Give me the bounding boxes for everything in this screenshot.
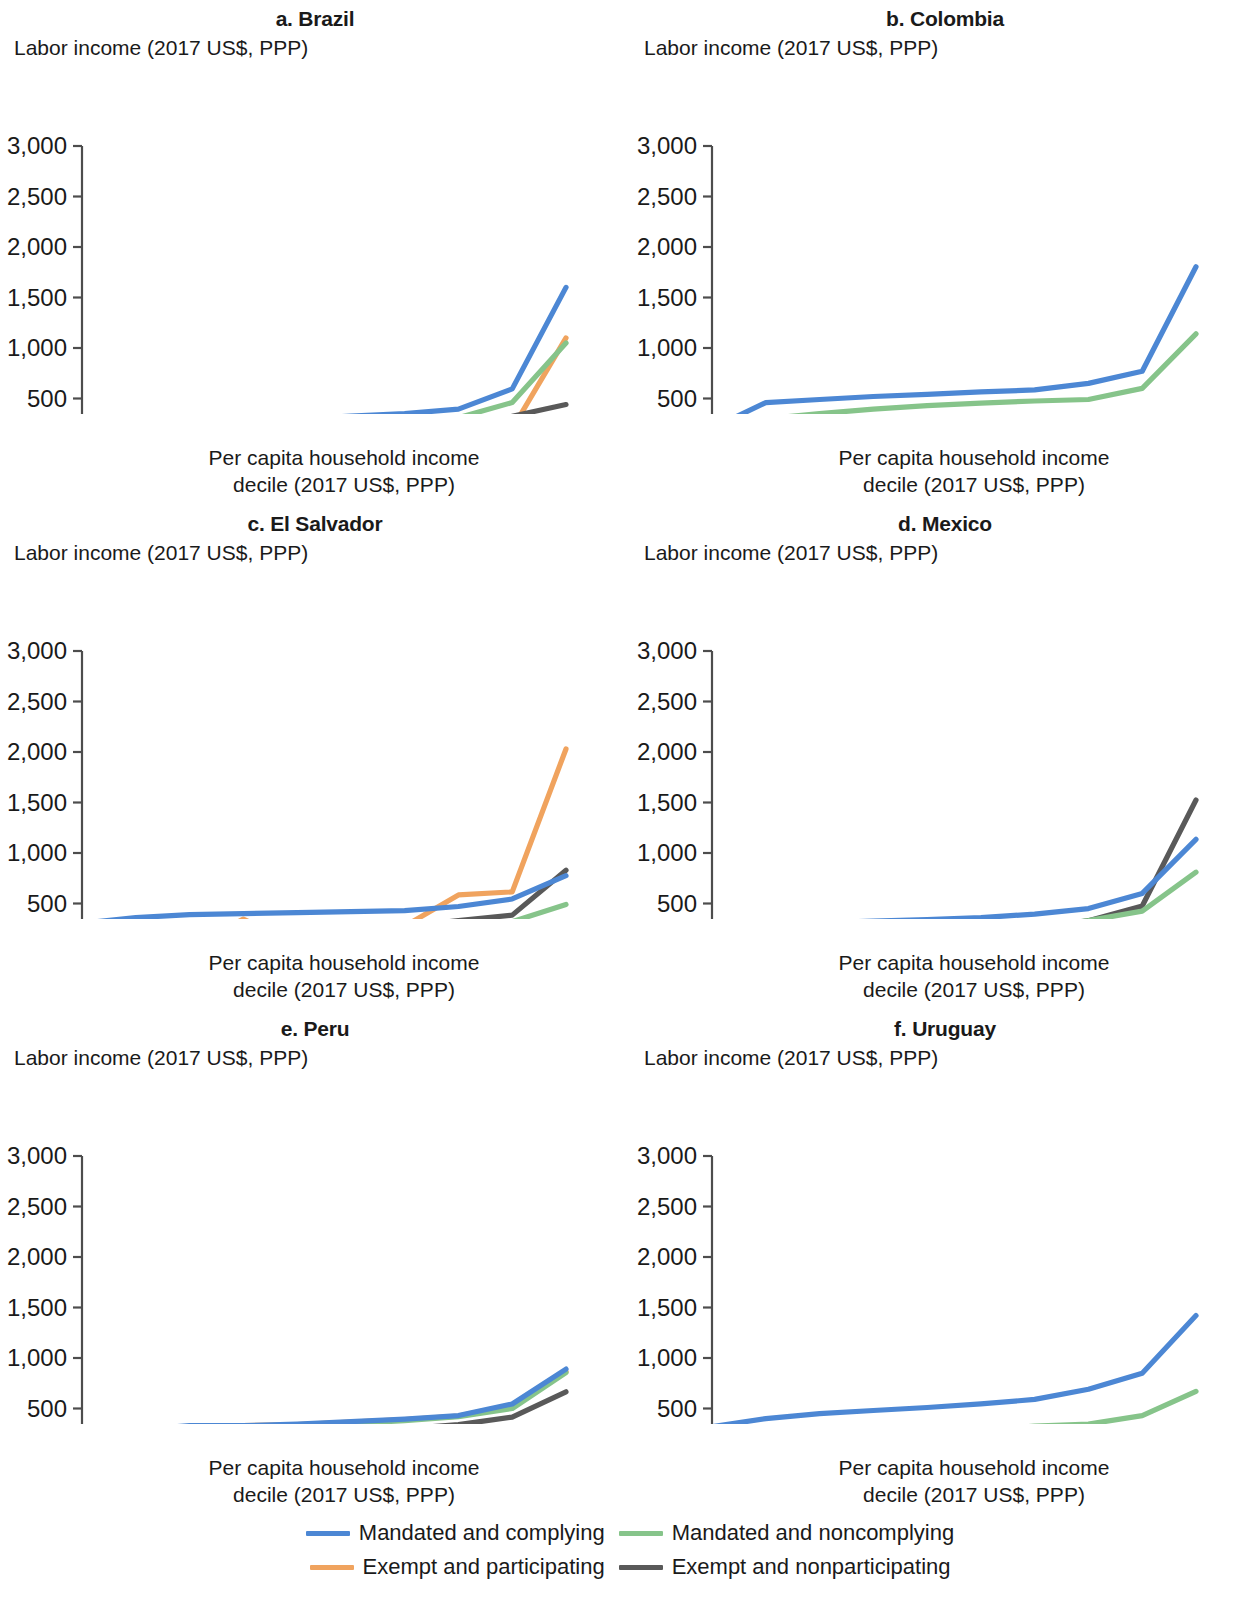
- x-axis-title-line1: Per capita household income: [839, 951, 1110, 974]
- panel-title: e. Peru: [0, 1016, 630, 1044]
- plot-area: 05001,0001,5002,0002,5003,00012345678910: [630, 64, 1260, 414]
- series-line: [712, 872, 1196, 919]
- series-line: [712, 1316, 1196, 1424]
- plot-area: 05001,0001,5002,0002,5003,00012345678910: [630, 1074, 1260, 1424]
- x-axis-title-line1: Per capita household income: [209, 1456, 480, 1479]
- series-line: [712, 839, 1196, 919]
- plot-area: 05001,0001,5002,0002,5003,00012345678910: [0, 64, 630, 414]
- legend-label: Mandated and noncomplying: [672, 1518, 955, 1548]
- x-axis-title-line1: Per capita household income: [209, 446, 480, 469]
- y-axis-title: Labor income (2017 US$, PPP): [14, 34, 630, 64]
- panel-a: a. BrazilLabor income (2017 US$, PPP)050…: [0, 0, 630, 505]
- y-tick-label: 1,000: [7, 334, 67, 361]
- plot-area: 05001,0001,5002,0002,5003,00012345678910: [630, 569, 1260, 919]
- y-tick-label: 2,000: [637, 738, 697, 765]
- panel-title: b. Colombia: [630, 6, 1260, 34]
- y-tick-label: 3,000: [637, 132, 697, 159]
- legend-label: Exempt and nonparticipating: [672, 1552, 951, 1582]
- y-tick-label: 1,000: [7, 1344, 67, 1371]
- y-axis-title: Labor income (2017 US$, PPP): [14, 539, 630, 569]
- legend-swatch-icon: [310, 1565, 354, 1570]
- y-tick-label: 1,000: [637, 1344, 697, 1371]
- legend-row: Exempt and participatingExempt and nonpa…: [310, 1552, 951, 1582]
- panel-c: c. El SalvadorLabor income (2017 US$, PP…: [0, 505, 630, 1010]
- x-axis-title-line2: decile (2017 US$, PPP): [688, 471, 1260, 498]
- y-tick-label: 500: [27, 385, 67, 412]
- legend-swatch-icon: [619, 1531, 663, 1536]
- y-tick-label: 500: [27, 890, 67, 917]
- legend-row: Mandated and complyingMandated and nonco…: [306, 1518, 954, 1548]
- legend-swatch-icon: [306, 1531, 350, 1536]
- y-tick-label: 1,000: [637, 334, 697, 361]
- y-axis-title: Labor income (2017 US$, PPP): [14, 1044, 630, 1074]
- series-line: [82, 1369, 566, 1424]
- panel-grid: a. BrazilLabor income (2017 US$, PPP)050…: [0, 0, 1260, 1502]
- y-axis-title: Labor income (2017 US$, PPP): [644, 1044, 1260, 1074]
- series-line: [82, 1372, 566, 1424]
- panel-f: f. UruguayLabor income (2017 US$, PPP)05…: [630, 1010, 1260, 1502]
- panel-b: b. ColombiaLabor income (2017 US$, PPP)0…: [630, 0, 1260, 505]
- y-tick-label: 1,500: [7, 789, 67, 816]
- legend-item-exempt_nonparticipating: Exempt and nonparticipating: [619, 1552, 951, 1582]
- y-tick-label: 3,000: [7, 1142, 67, 1169]
- y-tick-label: 1,000: [7, 839, 67, 866]
- series-line: [82, 1373, 566, 1424]
- y-tick-label: 2,500: [637, 183, 697, 210]
- y-tick-label: 1,500: [637, 284, 697, 311]
- x-axis-title-line2: decile (2017 US$, PPP): [688, 976, 1260, 1003]
- x-axis-title-line1: Per capita household income: [209, 951, 480, 974]
- plot-svg: 05001,0001,5002,0002,5003,00012345678910: [0, 64, 630, 414]
- y-tick-label: 500: [657, 385, 697, 412]
- y-tick-label: 2,000: [7, 738, 67, 765]
- y-tick-label: 3,000: [7, 637, 67, 664]
- y-axis-title: Labor income (2017 US$, PPP): [644, 34, 1260, 64]
- y-tick-label: 2,000: [637, 1243, 697, 1270]
- y-tick-label: 1,500: [637, 789, 697, 816]
- plot-svg: 05001,0001,5002,0002,5003,00012345678910: [630, 64, 1260, 414]
- legend-item-mandated_noncomplying: Mandated and noncomplying: [619, 1518, 955, 1548]
- x-axis-title: Per capita household incomedecile (2017 …: [630, 444, 1260, 498]
- y-tick-label: 2,000: [7, 233, 67, 260]
- plot-svg: 05001,0001,5002,0002,5003,00012345678910: [0, 569, 630, 919]
- panel-title: a. Brazil: [0, 6, 630, 34]
- y-tick-label: 2,000: [7, 1243, 67, 1270]
- y-tick-label: 2,500: [637, 1193, 697, 1220]
- x-axis-title: Per capita household incomedecile (2017 …: [0, 949, 630, 1003]
- y-tick-label: 2,000: [637, 233, 697, 260]
- plot-area: 05001,0001,5002,0002,5003,00012345678910: [0, 569, 630, 919]
- y-tick-label: 500: [27, 1395, 67, 1422]
- plot-area: 05001,0001,5002,0002,5003,00012345678910: [0, 1074, 630, 1424]
- panel-d: d. MexicoLabor income (2017 US$, PPP)050…: [630, 505, 1260, 1010]
- y-tick-label: 3,000: [7, 132, 67, 159]
- panel-e: e. PeruLabor income (2017 US$, PPP)05001…: [0, 1010, 630, 1502]
- y-tick-label: 2,500: [7, 688, 67, 715]
- plot-svg: 05001,0001,5002,0002,5003,00012345678910: [0, 1074, 630, 1424]
- y-tick-label: 2,500: [637, 688, 697, 715]
- y-tick-label: 1,500: [637, 1294, 697, 1321]
- x-axis-title: Per capita household incomedecile (2017 …: [630, 949, 1260, 1003]
- x-axis-title-line2: decile (2017 US$, PPP): [58, 471, 630, 498]
- y-tick-label: 2,500: [7, 183, 67, 210]
- y-axis-title: Labor income (2017 US$, PPP): [644, 539, 1260, 569]
- y-tick-label: 500: [657, 890, 697, 917]
- y-tick-label: 3,000: [637, 1142, 697, 1169]
- legend-label: Exempt and participating: [363, 1552, 605, 1582]
- y-tick-label: 2,500: [7, 1193, 67, 1220]
- x-axis-title: Per capita household incomedecile (2017 …: [0, 1454, 630, 1508]
- x-axis-title-line2: decile (2017 US$, PPP): [58, 1481, 630, 1508]
- y-tick-label: 1,000: [637, 839, 697, 866]
- legend-label: Mandated and complying: [359, 1518, 605, 1548]
- y-tick-label: 3,000: [637, 637, 697, 664]
- y-tick-label: 500: [657, 1395, 697, 1422]
- plot-svg: 05001,0001,5002,0002,5003,00012345678910: [630, 569, 1260, 919]
- y-tick-label: 1,500: [7, 1294, 67, 1321]
- panel-title: d. Mexico: [630, 511, 1260, 539]
- x-axis-title-line2: decile (2017 US$, PPP): [688, 1481, 1260, 1508]
- legend: Mandated and complyingMandated and nonco…: [0, 1518, 1260, 1582]
- y-tick-label: 1,500: [7, 284, 67, 311]
- plot-svg: 05001,0001,5002,0002,5003,00012345678910: [630, 1074, 1260, 1424]
- figure-root: a. BrazilLabor income (2017 US$, PPP)050…: [0, 0, 1260, 1600]
- x-axis-title-line1: Per capita household income: [839, 446, 1110, 469]
- series-line: [82, 287, 566, 414]
- x-axis-title-line2: decile (2017 US$, PPP): [58, 976, 630, 1003]
